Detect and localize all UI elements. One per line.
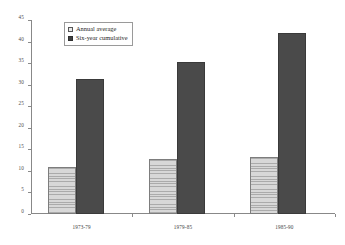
- bar-annual-average: [48, 167, 76, 214]
- y-axis-tick-label: 40: [19, 37, 24, 42]
- y-axis-tick-mark: [28, 171, 31, 172]
- y-axis-tick-label: 15: [19, 144, 24, 149]
- y-axis-tick-mark: [28, 20, 31, 21]
- x-axis-category-label: 1985-90: [275, 225, 293, 230]
- legend-label-six-year-cumulative: Six-year cumulative: [76, 35, 128, 41]
- y-axis-tick-mark: [28, 85, 31, 86]
- y-axis-tick-label: 35: [19, 58, 24, 63]
- plot-area: 051015202530354045 1973-791979-851985-90: [31, 20, 335, 214]
- y-axis-tick-mark: [28, 106, 31, 107]
- y-axis-tick-mark: [28, 63, 31, 64]
- y-axis-tick-label: 25: [19, 101, 24, 106]
- bar-six-year-cumulative: [76, 79, 104, 214]
- x-axis-tick-mark: [335, 214, 336, 217]
- chart-legend: Annual average Six-year cumulative: [64, 22, 133, 46]
- y-axis-tick-mark: [28, 192, 31, 193]
- y-axis-tick-label: 30: [19, 80, 24, 85]
- bar-six-year-cumulative: [177, 62, 205, 214]
- y-axis-tick-label: 45: [19, 15, 24, 20]
- x-axis-tick-mark: [132, 214, 133, 217]
- legend-swatch-icon-six-year-cumulative: [68, 36, 73, 41]
- y-axis-tick-mark: [28, 149, 31, 150]
- x-axis-tick-mark: [234, 214, 235, 217]
- legend-swatch-icon-annual-average: [68, 27, 73, 32]
- y-axis-tick-mark: [28, 128, 31, 129]
- legend-item-six-year-cumulative: Six-year cumulative: [68, 34, 128, 43]
- bar-annual-average: [250, 157, 278, 214]
- y-axis-tick-label: 20: [19, 123, 24, 128]
- legend-label-annual-average: Annual average: [76, 26, 116, 32]
- y-axis-tick-label: 0: [21, 209, 24, 214]
- legend-item-annual-average: Annual average: [68, 25, 128, 34]
- chart-page: 051015202530354045 1973-791979-851985-90…: [0, 0, 345, 245]
- y-axis-tick-label: 10: [19, 166, 24, 171]
- y-axis-tick-mark: [28, 214, 31, 215]
- x-axis-category-label: 1973-79: [72, 225, 90, 230]
- y-axis-tick-label: 5: [21, 187, 24, 192]
- bar-six-year-cumulative: [278, 33, 306, 214]
- y-axis-tick-mark: [28, 42, 31, 43]
- bar-annual-average: [149, 159, 177, 214]
- x-axis-category-label: 1979-85: [174, 225, 192, 230]
